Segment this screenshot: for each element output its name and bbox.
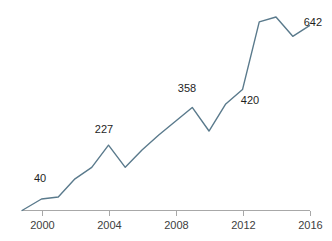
x-tick-label-2016: 2016 [298,219,322,231]
label-642: 642 [304,16,322,28]
chart-background [0,0,332,241]
label-420: 420 [241,94,259,106]
x-tick-label-2008: 2008 [164,219,188,231]
line-chart-figure: 20002004200820122016 40227358420642 [0,0,332,241]
x-tick-label-2000: 2000 [30,219,54,231]
x-tick-label-2004: 2004 [97,219,121,231]
x-tick-label-2012: 2012 [231,219,255,231]
chart-canvas: 20002004200820122016 40227358420642 [0,0,332,241]
label-358: 358 [178,82,196,94]
label-40: 40 [34,172,46,184]
label-227: 227 [95,123,113,135]
